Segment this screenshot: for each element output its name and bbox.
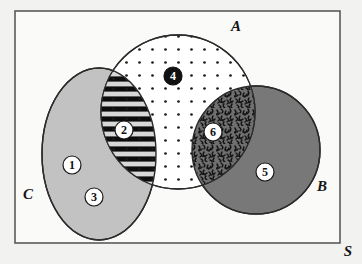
region-1-marker: 1 xyxy=(63,156,81,174)
region-5-label: 5 xyxy=(262,165,268,179)
venn-diagram-canvas: 1 2 3 4 5 6 A B C S xyxy=(0,0,362,264)
region-6-marker: 6 xyxy=(204,123,222,141)
region-6-label: 6 xyxy=(210,125,216,139)
region-3-label: 3 xyxy=(91,190,97,204)
region-4-label: 4 xyxy=(170,69,176,83)
region-4-marker: 4 xyxy=(164,67,182,85)
universal-set-label: S xyxy=(344,243,352,259)
region-3-marker: 3 xyxy=(85,188,103,206)
region-5-marker: 5 xyxy=(256,163,274,181)
set-b-label: B xyxy=(316,178,327,194)
region-2-label: 2 xyxy=(121,123,127,137)
set-a-label: A xyxy=(230,18,241,34)
venn-diagram-figure: 1 2 3 4 5 6 A B C S xyxy=(0,0,362,264)
set-c-label: C xyxy=(23,186,34,202)
region-2-marker: 2 xyxy=(115,121,133,139)
region-1-label: 1 xyxy=(69,158,75,172)
